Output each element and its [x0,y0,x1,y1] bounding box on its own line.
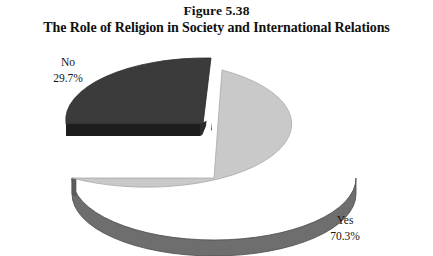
page-title: The Role of Religion in Society and Inte… [0,19,433,37]
figure-title-block: Figure 5.38 The Role of Religion in Soci… [0,2,433,37]
pie-label-yes-value: 70.3% [304,228,386,244]
pie-label-yes: Yes 70.3% [304,212,386,244]
figure-container: Figure 5.38 The Role of Religion in Soci… [0,0,433,256]
figure-number: Figure 5.38 [0,2,433,19]
pie-chart: No 29.7% Yes 70.3% [0,46,433,256]
pie-label-no: No 29.7% [28,54,108,86]
pie-label-yes-name: Yes [304,212,386,228]
pie-label-no-name: No [28,54,108,70]
pie-label-no-value: 29.7% [28,70,108,86]
